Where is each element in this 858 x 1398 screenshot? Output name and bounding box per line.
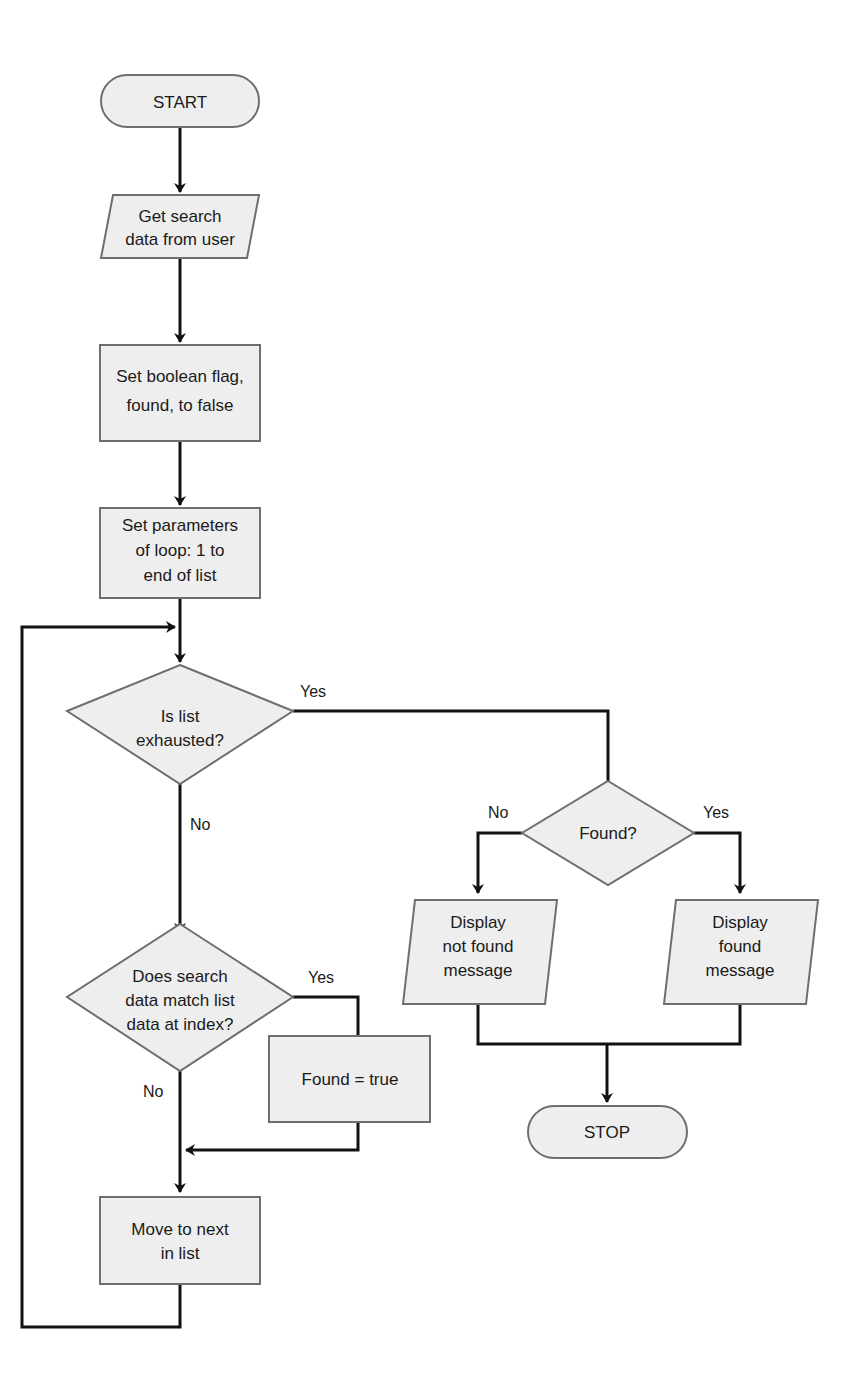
node-display-not-found-line-2: not found <box>443 937 514 956</box>
node-does-match-line-3: data at index? <box>127 1015 234 1034</box>
node-set-loop-line-1: Set parameters <box>122 516 238 535</box>
node-stop: STOP <box>528 1106 687 1158</box>
node-start: START <box>101 75 259 127</box>
node-display-found: Display found message <box>664 900 818 1004</box>
node-found-true-label: Found = true <box>302 1070 399 1089</box>
node-set-loop-line-3: end of list <box>144 566 217 585</box>
label-exhausted-yes: Yes <box>300 683 326 700</box>
label-exhausted-no: No <box>190 816 211 833</box>
node-found-check: Found? <box>522 781 694 885</box>
node-get-input: Get search data from user <box>101 195 259 258</box>
label-found-yes: Yes <box>703 804 729 821</box>
node-display-not-found-line-3: message <box>444 961 513 980</box>
node-display-found-line-3: message <box>706 961 775 980</box>
node-start-label: START <box>153 93 207 112</box>
node-move-next: Move to next in list <box>100 1197 260 1284</box>
edge-displays-merge <box>478 1004 740 1044</box>
node-set-flag-line-1: Set boolean flag, <box>116 367 244 386</box>
node-display-not-found-line-1: Display <box>450 913 506 932</box>
node-move-next-line-2: in list <box>161 1244 200 1263</box>
edge-found-yes <box>694 833 740 893</box>
node-set-loop: Set parameters of loop: 1 to end of list <box>100 508 260 598</box>
node-get-input-line-2: data from user <box>125 230 235 249</box>
node-display-not-found: Display not found message <box>403 900 557 1004</box>
node-set-flag-line-2: found, to false <box>127 396 234 415</box>
node-found-check-label: Found? <box>579 824 637 843</box>
node-set-loop-line-2: of loop: 1 to <box>136 541 225 560</box>
label-match-no: No <box>143 1083 164 1100</box>
node-is-exhausted-line-1: Is list <box>161 707 200 726</box>
edge-match-yes <box>293 997 358 1035</box>
node-is-exhausted-line-2: exhausted? <box>136 731 224 750</box>
edge-found-true-return <box>186 1122 358 1150</box>
node-move-next-line-1: Move to next <box>131 1220 229 1239</box>
node-set-flag: Set boolean flag, found, to false <box>100 345 260 441</box>
node-is-exhausted: Is list exhausted? <box>67 665 293 784</box>
node-display-found-line-1: Display <box>712 913 768 932</box>
node-found-true: Found = true <box>269 1036 430 1122</box>
node-display-found-line-2: found <box>719 937 762 956</box>
edge-exhausted-yes <box>293 711 608 800</box>
flowchart: START Get search data from user Set bool… <box>0 0 858 1398</box>
node-get-input-line-1: Get search <box>138 207 221 226</box>
node-does-match-line-2: data match list <box>125 991 235 1010</box>
edge-found-no <box>478 833 522 893</box>
node-does-match: Does search data match list data at inde… <box>67 924 293 1071</box>
label-found-no: No <box>488 804 509 821</box>
node-does-match-line-1: Does search <box>132 967 227 986</box>
label-match-yes: Yes <box>308 969 334 986</box>
node-stop-label: STOP <box>584 1123 630 1142</box>
